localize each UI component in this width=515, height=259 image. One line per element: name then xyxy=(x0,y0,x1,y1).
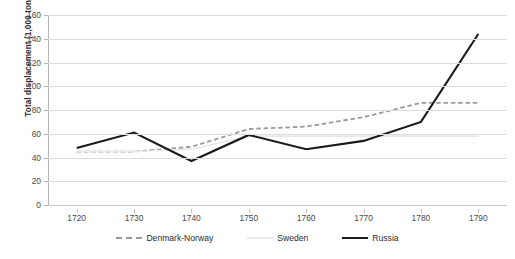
legend-item-denmark-norway[interactable]: Denmark-Norway xyxy=(116,233,213,243)
gridline xyxy=(48,205,507,206)
gridline xyxy=(48,63,507,64)
x-axis-tick-mark xyxy=(421,209,422,213)
x-axis-tick-mark xyxy=(77,209,78,213)
y-axis-tick-mark xyxy=(44,63,48,64)
gridline xyxy=(48,158,507,159)
y-axis-tick-label: 100 xyxy=(1,81,41,91)
y-axis-tick-label: 160 xyxy=(1,10,41,20)
y-axis-tick-label: 20 xyxy=(1,176,41,186)
y-axis-tick-mark xyxy=(44,15,48,16)
legend-item-label: Sweden xyxy=(277,233,308,243)
gridline xyxy=(48,181,507,182)
legend-item-label: Russia xyxy=(372,233,398,243)
legend-line-swatch-icon xyxy=(247,237,273,239)
line-chart: Total displacement (1,000 tons) 02040608… xyxy=(0,0,515,259)
legend-item-label: Denmark-Norway xyxy=(146,233,213,243)
gridline xyxy=(48,110,507,111)
y-axis-tick-label: 120 xyxy=(1,58,41,68)
y-axis-tick-mark xyxy=(44,205,48,206)
x-axis-tick-mark xyxy=(191,209,192,213)
y-axis-tick-mark xyxy=(44,39,48,40)
y-axis-tick-mark xyxy=(44,110,48,111)
x-axis-tick-mark xyxy=(134,209,135,213)
legend-item-russia[interactable]: Russia xyxy=(342,233,398,243)
y-axis-tick-mark xyxy=(44,86,48,87)
x-axis-tick-mark xyxy=(478,209,479,213)
y-axis-tick-label: 80 xyxy=(1,105,41,115)
y-axis-tick-mark xyxy=(44,181,48,182)
y-axis-tick-label: 40 xyxy=(1,153,41,163)
y-axis-tick-label: 140 xyxy=(1,34,41,44)
legend-line-swatch-icon xyxy=(116,237,142,239)
chart-legend: Denmark-NorwaySwedenRussia xyxy=(0,233,515,243)
x-axis-tick-mark xyxy=(364,209,365,213)
gridline xyxy=(48,39,507,40)
y-axis-tick-label: 0 xyxy=(1,200,41,210)
y-axis-tick-labels: 020406080100120140160 xyxy=(0,15,41,205)
x-axis-tick-mark xyxy=(306,209,307,213)
legend-line-swatch-icon xyxy=(342,237,368,239)
x-axis-title: .. xyxy=(0,219,515,225)
y-axis-tick-mark xyxy=(44,158,48,159)
gridlines xyxy=(48,15,507,205)
plot-area xyxy=(48,15,507,205)
legend-item-sweden[interactable]: Sweden xyxy=(247,233,308,243)
gridline xyxy=(48,134,507,135)
gridline xyxy=(48,86,507,87)
x-axis-tick-mark xyxy=(249,209,250,213)
y-axis-tick-mark xyxy=(44,134,48,135)
y-axis-tick-label: 60 xyxy=(1,129,41,139)
gridline xyxy=(48,15,507,16)
